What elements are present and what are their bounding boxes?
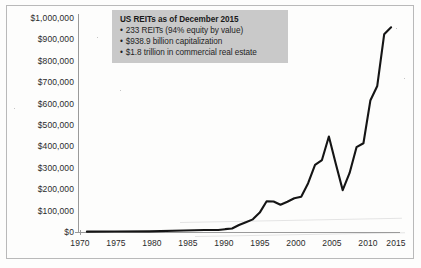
y-tick-label: $400,000 (38, 141, 74, 151)
y-tick-label: $600,000 (38, 99, 74, 109)
annotation-bullet: $1.8 trillion in commercial real estate (120, 47, 282, 58)
chart-screenshot: $1,000,000 $900,000 $800,000 $700,000 $6… (0, 0, 421, 268)
y-tick-label: $800,000 (38, 56, 74, 66)
x-tick-label: 2010 (358, 238, 377, 248)
x-tick-label: 2015 (386, 238, 405, 248)
x-tick-label: 1985 (178, 238, 197, 248)
y-tick-label: $0 (64, 227, 74, 237)
y-tick-label: $1,000,000 (30, 13, 74, 23)
y-tick-label: $900,000 (38, 34, 74, 44)
scan-speck (404, 78, 405, 79)
y-tick-label: $700,000 (38, 77, 74, 87)
annotation-bullet: 233 REITs (94% equity by value) (120, 25, 282, 36)
annotation-bullet-list: 233 REITs (94% equity by value) $938.9 b… (120, 25, 282, 58)
x-tick-label: 1975 (106, 238, 125, 248)
x-tick-label: 1990 (214, 238, 233, 248)
annotation-bullet: $938.9 billion capitalization (120, 36, 282, 47)
annotation-title: US REITs as of December 2015 (120, 14, 282, 25)
y-tick-label: $300,000 (38, 163, 74, 173)
x-tick-label: 1970 (70, 238, 89, 248)
y-tick-label: $500,000 (38, 120, 74, 130)
x-tick-label: 1995 (250, 238, 269, 248)
y-tick-label: $100,000 (38, 206, 74, 216)
annotation-callout: US REITs as of December 2015 233 REITs (… (112, 10, 288, 63)
x-tick-label: 1980 (142, 238, 161, 248)
x-tick-label: 2005 (322, 238, 341, 248)
y-tick-label: $200,000 (38, 184, 74, 194)
x-tick-label: 2000 (286, 238, 305, 248)
y-axis-labels: $1,000,000 $900,000 $800,000 $700,000 $6… (0, 0, 74, 268)
